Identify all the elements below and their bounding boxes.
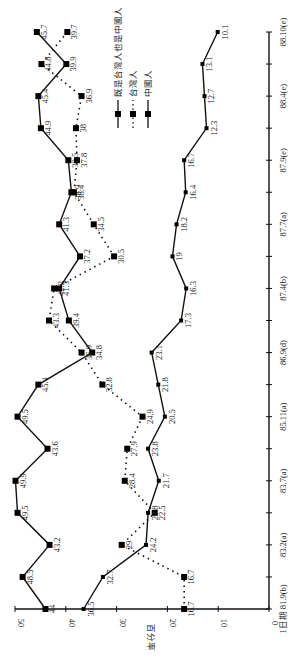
legend-label: 台灣人 [128,70,138,97]
series-line [41,32,184,609]
legend-label: 中國人 [143,70,153,97]
legend-swatch-marker [115,111,121,117]
legend-swatch-marker [130,111,136,117]
data-label: 34.8 [94,345,104,360]
data-label: 37.8 [79,153,89,168]
data-label: 19 [174,252,184,261]
data-label: 29 [124,541,134,550]
data-label: 24.9 [145,409,155,424]
data-label: 23.8 [150,505,160,520]
data-label: 18.2 [179,217,189,232]
data-label: 49.5 [20,409,30,424]
data-label: 43.6 [50,441,60,456]
data-label: 37.2 [82,249,92,264]
data-label: 32.7 [105,570,115,585]
data-label: 42.3 [56,281,66,296]
chart-axes: 01020304050百分率1日期 81.9(b)83.2(a)83.7(a)8… [15,18,288,651]
time-tick-label: 88.4(e) [278,84,288,108]
legend-label: 既是台灣人也是中國人 [113,7,123,97]
data-label: 23.8 [150,441,160,456]
data-label: 45.7 [39,25,49,40]
data-label: 24.2 [148,537,158,552]
series-line [84,32,218,609]
time-tick-label: 85.11(a) [278,402,288,430]
data-label: 43.2 [52,537,62,552]
value-tick-label: 40 [67,619,77,628]
time-tick-label: 88.10(e) [278,18,288,47]
value-tick-label: 30 [118,619,128,628]
data-label: 39.9 [68,57,78,72]
time-tick-label: 87.9(e) [278,148,288,172]
value-tick-label: 50 [16,619,26,628]
data-label: 39.4 [71,312,81,328]
data-label: 30.5 [116,249,126,264]
identity-trend-chart: 01020304050百分率1日期 81.9(b)83.2(a)83.7(a)8… [0,0,299,656]
data-label: 49.5 [20,505,30,520]
time-tick-label: 86.9(d) [278,340,288,365]
data-label: 49.9 [18,473,28,488]
data-label: 12.3 [209,121,219,136]
data-label: 12.7 [206,89,216,104]
time-tick-label: 83.7(a) [278,468,288,492]
chart-series: 4448.543.249.549.943.649.545.434.839.441… [13,25,230,617]
data-label: 36.5 [86,602,96,617]
data-label: 16.3 [188,281,198,296]
time-tick-label: 87.4(b) [278,276,288,301]
time-tick-label: 83.2(a) [278,533,288,557]
data-label: 28.4 [127,473,137,489]
data-label: 45.4 [40,88,50,104]
data-label: 16.4 [188,184,198,200]
data-label: 21.8 [160,377,170,392]
value-tick-label: 10 [219,619,229,628]
time-tick-label: 87.7(a) [278,212,288,236]
data-label: 23.1 [154,345,164,360]
data-label: 38 [78,124,88,133]
data-label: 44.8 [43,57,53,72]
chart-legend: 既是台灣人也是中國人台灣人中國人 [113,7,153,128]
data-label: 16.7 [186,153,196,168]
data-label: 45.4 [40,376,50,392]
data-label: 39.7 [69,25,79,40]
data-label: 17.3 [183,313,193,328]
data-label: 44 [47,604,57,613]
data-label: 36.9 [84,89,94,104]
data-label: 16.7 [186,570,196,585]
time-tick-label: 1日期 81.9(b) [278,584,288,633]
data-label: 32.8 [104,377,114,392]
legend-swatch-marker [145,111,151,117]
data-label: 43.3 [51,313,61,328]
data-label: 36.9 [84,345,94,360]
series-2: 36.532.724.223.821.723.820.521.823.117.3… [82,25,230,617]
data-label: 21.7 [161,473,171,488]
data-label: 27.9 [129,441,139,456]
data-label: 41.3 [61,217,71,232]
data-label: 20.5 [167,409,177,424]
value-tick-label: 20 [168,619,178,628]
data-label: 16.7 [186,602,196,617]
data-label: 44.9 [43,121,53,136]
data-label: 10.1 [220,25,230,40]
data-label: 38.4 [76,184,86,200]
value-axis-title: 百分率 [146,624,156,651]
data-label: 13.1 [204,57,214,72]
data-label: 48.5 [25,570,35,585]
data-label: 34.5 [96,217,106,232]
